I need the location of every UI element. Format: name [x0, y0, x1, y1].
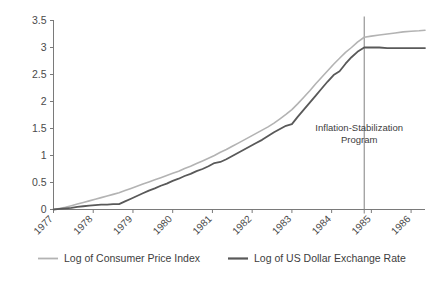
- y-axis-tick-label: 3: [41, 41, 47, 53]
- chart-annotations: Inflation-StabilizationProgram: [315, 17, 403, 214]
- y-axis-tick-label: 0.5: [32, 176, 47, 188]
- x-axis-tick-label: 1980: [151, 213, 175, 237]
- y-axis: 00.511.522.533.5: [32, 14, 54, 215]
- legend-label-1: Log of US Dollar Exchange Rate: [254, 252, 406, 264]
- x-axis-tick-label: 1986: [389, 213, 413, 237]
- x-axis-tick-label: 1977: [31, 213, 55, 237]
- y-axis-tick-label: 2: [41, 95, 47, 107]
- legend-label-0: Log of Consumer Price Index: [64, 252, 201, 264]
- x-axis-tick-label: 1983: [270, 213, 294, 237]
- x-axis: 1977197819791980198119821983198419851986: [31, 210, 425, 237]
- chart-series: [54, 30, 426, 209]
- x-axis-tick-label: 1981: [190, 213, 214, 237]
- y-axis-tick-label: 1.5: [32, 122, 47, 134]
- y-axis-tick-label: 2.5: [32, 68, 47, 80]
- x-axis-tick-label: 1982: [230, 213, 254, 237]
- y-axis-tick-label: 3.5: [32, 14, 47, 26]
- y-axis-tick-label: 1: [41, 149, 47, 161]
- inflation-stabilization-marker-label-line2: Program: [341, 134, 378, 145]
- chart-legend: Log of Consumer Price IndexLog of US Dol…: [38, 252, 406, 264]
- x-axis-tick-label: 1985: [349, 213, 373, 237]
- series-line-0: [54, 30, 426, 209]
- x-axis-tick-label: 1979: [111, 213, 135, 237]
- chart-canvas: 00.511.522.533.5 19771978197919801981198…: [0, 0, 434, 282]
- inflation-stabilization-marker-label-line1: Inflation-Stabilization: [315, 122, 403, 133]
- chart-figure: 00.511.522.533.5 19771978197919801981198…: [0, 0, 434, 282]
- x-axis-tick-label: 1978: [71, 213, 95, 237]
- x-axis-tick-label: 1984: [310, 213, 334, 237]
